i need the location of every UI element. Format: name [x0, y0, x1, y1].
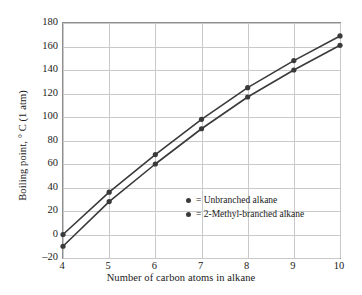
- x-axis-tick-label: 6: [139, 261, 169, 272]
- legend-item: = 2-Methyl-branched alkane: [186, 209, 304, 220]
- x-axis-tick-labels: 45678910: [0, 0, 362, 295]
- legend-item-label: = 2-Methyl-branched alkane: [196, 209, 304, 220]
- x-axis-tick-label: 7: [186, 261, 216, 272]
- x-axis-tick-label: 9: [278, 261, 308, 272]
- filled-circle-marker-icon: [186, 212, 191, 217]
- legend-item: = Unbranched alkane: [186, 195, 304, 206]
- x-axis-tick-label: 8: [232, 261, 262, 272]
- filled-circle-marker-icon: [186, 198, 191, 203]
- legend-item-label: = Unbranched alkane: [196, 195, 277, 206]
- x-axis-tick-label: 5: [93, 261, 123, 272]
- legend: = Unbranched alkane = 2-Methyl-branched …: [186, 195, 304, 220]
- x-axis-title: Number of carbon atoms in alkane: [0, 272, 362, 283]
- line-chart: Boiling point, ° C (1 atm) 1801601401201…: [0, 0, 362, 295]
- x-axis-tick-label: 10: [324, 261, 354, 272]
- x-axis-tick-label: 4: [47, 261, 77, 272]
